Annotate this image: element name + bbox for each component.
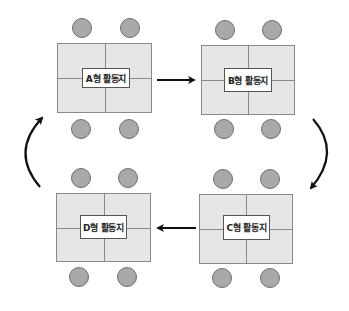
arrow-b-to-c-icon [311,119,327,188]
arrow-d-to-a-icon [25,118,42,187]
flow-arrows [0,0,349,311]
